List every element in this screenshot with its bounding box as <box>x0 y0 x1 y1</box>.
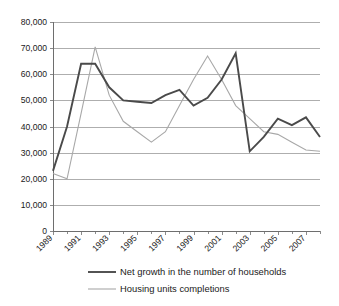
x-tick-label: 1989 <box>34 233 55 254</box>
legend-label-2: Housing units completions <box>120 283 230 294</box>
y-tick-label: 60,000 <box>21 69 48 79</box>
data-series <box>53 47 320 179</box>
x-tick-label: 1991 <box>62 233 83 254</box>
line-chart: 010,00020,00030,00040,00050,00060,00070,… <box>0 0 339 306</box>
axes <box>50 22 321 232</box>
y-tick-label: 50,000 <box>21 95 48 105</box>
y-axis-tick-labels: 010,00020,00030,00040,00050,00060,00070,… <box>21 17 48 236</box>
x-tick-label: 2001 <box>202 233 223 254</box>
y-tick-label: 80,000 <box>21 17 48 27</box>
x-tick-label: 2007 <box>287 233 308 254</box>
x-tick-label: 1999 <box>174 233 195 254</box>
y-tick-label: 30,000 <box>21 148 48 158</box>
chart-canvas: 010,00020,00030,00040,00050,00060,00070,… <box>0 0 339 306</box>
x-axis-tick-labels: 1989199119931995199719992001200320052007 <box>34 233 308 254</box>
chart-legend: Net growth in the number of householdsHo… <box>88 266 287 294</box>
y-tick-label: 10,000 <box>21 200 48 210</box>
series-line-2 <box>53 47 320 179</box>
gridlines <box>53 23 320 232</box>
legend-label-1: Net growth in the number of households <box>120 266 287 277</box>
x-tick-label: 1993 <box>90 233 111 254</box>
x-tick-label: 2005 <box>259 233 280 254</box>
y-tick-label: 70,000 <box>21 43 48 53</box>
x-tick-label: 2003 <box>231 233 252 254</box>
y-tick-label: 40,000 <box>21 122 48 132</box>
x-tick-label: 1997 <box>146 233 167 254</box>
x-tick-label: 1995 <box>118 233 139 254</box>
y-tick-label: 20,000 <box>21 174 48 184</box>
